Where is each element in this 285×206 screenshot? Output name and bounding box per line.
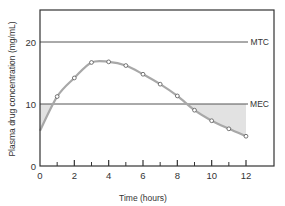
data-point-marker — [227, 127, 231, 131]
data-point-marker — [90, 61, 94, 65]
data-point-marker — [210, 119, 214, 123]
data-point-marker — [141, 72, 145, 76]
data-point-marker — [158, 82, 162, 86]
x-tick-label: 0 — [37, 170, 42, 181]
data-point-marker — [72, 76, 76, 80]
axes: 02468101201020 — [25, 10, 274, 181]
y-tick-label: 10 — [25, 99, 36, 110]
pharmacokinetic-chart: 02468101201020 Time (hours) Plasma drug … — [0, 0, 285, 206]
mec-label: MEC — [250, 99, 269, 109]
data-point-marker — [107, 60, 111, 64]
x-tick-label: 2 — [72, 170, 77, 181]
x-tick-label: 10 — [206, 170, 217, 181]
plot-frame — [40, 10, 274, 166]
concentration-curve — [40, 60, 248, 138]
chart-svg: 02468101201020 Time (hours) Plasma drug … — [0, 0, 285, 206]
data-point-marker — [55, 95, 59, 99]
x-tick-label: 12 — [241, 170, 252, 181]
y-tick-label: 20 — [25, 37, 36, 48]
x-axis-label: Time (hours) — [119, 193, 167, 203]
x-tick-label: 8 — [175, 170, 180, 181]
x-tick-label: 4 — [106, 170, 111, 181]
data-point-marker — [193, 108, 197, 112]
data-point-marker — [244, 134, 248, 138]
data-point-marker — [124, 64, 128, 68]
x-tick-label: 6 — [140, 170, 145, 181]
mtc-label: MTC — [251, 37, 269, 47]
y-axis-label: Plasma drug concentration (mg/mL) — [7, 21, 17, 156]
subtherapeutic-shaded-regions — [40, 104, 246, 136]
y-tick-label: 0 — [31, 161, 36, 172]
data-point-marker — [175, 94, 179, 98]
